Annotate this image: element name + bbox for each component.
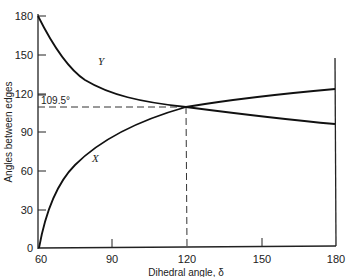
reference-annotation: 109.5° bbox=[41, 95, 70, 106]
svg-text:180: 180 bbox=[327, 253, 345, 265]
svg-text:0: 0 bbox=[27, 242, 33, 254]
y-ticks bbox=[38, 16, 46, 210]
y-axis-label: Angles between edges bbox=[3, 81, 14, 182]
x-tick-labels: 60 90 120 150 180 bbox=[35, 253, 345, 265]
right-boundary-line bbox=[335, 58, 336, 246]
svg-text:90: 90 bbox=[106, 253, 118, 265]
reference-line-vertical bbox=[186, 107, 187, 247]
curve-x-label: X bbox=[91, 152, 100, 164]
svg-text:60: 60 bbox=[35, 253, 47, 265]
curve-y-label: Y bbox=[98, 55, 106, 67]
svg-text:150: 150 bbox=[253, 253, 271, 265]
chart: 180 150 120 90 60 30 0 60 90 120 150 180… bbox=[0, 0, 347, 277]
svg-text:90: 90 bbox=[21, 126, 33, 138]
svg-text:60: 60 bbox=[21, 165, 33, 177]
svg-text:180: 180 bbox=[15, 10, 33, 22]
svg-text:120: 120 bbox=[15, 88, 33, 100]
x-axis-label: Dihedral angle, δ bbox=[148, 267, 224, 277]
curve-x bbox=[39, 89, 335, 248]
svg-text:150: 150 bbox=[15, 49, 33, 61]
y-tick-labels: 180 150 120 90 60 30 0 bbox=[15, 10, 33, 254]
svg-text:120: 120 bbox=[178, 253, 196, 265]
svg-text:30: 30 bbox=[21, 204, 33, 216]
